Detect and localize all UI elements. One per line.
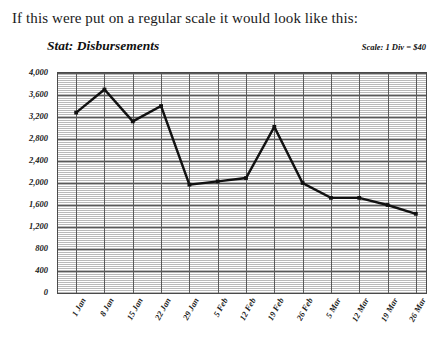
x-axis-tick: 8 Jan: [98, 296, 116, 318]
y-axis-tick: 800: [35, 243, 48, 253]
y-axis-tick: 1,600: [29, 199, 48, 209]
x-axis-tick: 5 Feb: [211, 296, 229, 318]
y-axis: 4,0003,6003,2002,8002,4002,0001,6001,200…: [0, 72, 52, 292]
x-axis-tick: 22 Jan: [152, 296, 172, 322]
x-axis-tick: 29 Jan: [181, 296, 201, 322]
x-axis-tick: 19 Mar: [378, 296, 399, 323]
data-point: [131, 120, 135, 124]
x-axis-tick: 19 Feb: [266, 296, 287, 322]
x-axis: 1 Jan8 Jan15 Jan22 Jan29 Jan5 Feb12 Feb1…: [57, 296, 425, 348]
x-axis-tick: 26 Feb: [294, 296, 315, 322]
y-axis-tick: 400: [35, 265, 48, 275]
x-axis-tick: 1 Jan: [70, 296, 88, 318]
disbursements-series: [58, 73, 426, 293]
y-axis-tick: 3,600: [29, 89, 48, 99]
chart-scale-note: Scale: 1 Div = $40: [362, 42, 426, 52]
series-line: [76, 90, 416, 214]
data-point: [159, 104, 163, 108]
y-axis-tick: 2,400: [29, 155, 48, 165]
data-point: [244, 176, 248, 180]
y-axis-tick: 4,000: [29, 67, 48, 77]
data-point: [74, 111, 78, 115]
data-point: [103, 88, 107, 92]
data-point: [272, 125, 276, 129]
y-axis-tick: 2,000: [29, 177, 48, 187]
chart-title: Stat: Disbursements: [47, 38, 159, 54]
data-point: [357, 196, 361, 200]
data-point: [414, 212, 418, 216]
y-axis-tick: 1,200: [29, 221, 48, 231]
data-point: [216, 179, 220, 183]
y-axis-tick: 0: [44, 287, 48, 297]
data-point: [329, 196, 333, 200]
y-axis-tick: 3,200: [29, 111, 48, 121]
data-point: [386, 203, 390, 207]
x-axis-tick: 12 Mar: [350, 296, 371, 323]
x-axis-tick: 15 Jan: [124, 296, 144, 322]
x-axis-tick: 5 Mar: [323, 296, 342, 320]
data-point: [301, 181, 305, 185]
x-axis-tick: 26 Mar: [406, 296, 427, 323]
data-point: [187, 183, 191, 187]
y-axis-tick: 2,800: [29, 133, 48, 143]
chart-panel: Stat: Disbursements Scale: 1 Div = $40 4…: [0, 30, 438, 351]
x-axis-tick: 12 Feb: [237, 296, 258, 322]
intro-text: If this were put on a regular scale it w…: [12, 10, 358, 27]
plot-area: [57, 72, 427, 294]
